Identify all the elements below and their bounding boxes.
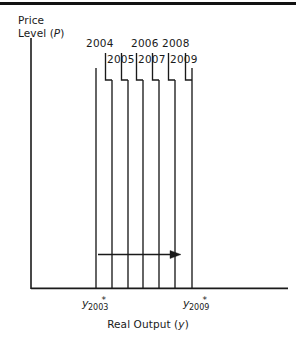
year-label-2008: 2008 bbox=[162, 38, 190, 49]
output-label-end: y2009* bbox=[183, 297, 210, 310]
x-axis-label-prefix: Real Output ( bbox=[107, 318, 178, 330]
year-label-2007: 2007 bbox=[138, 54, 166, 65]
year-label-2004: 2004 bbox=[86, 38, 114, 49]
year-label-2006: 2006 bbox=[131, 38, 159, 49]
x-axis-label-suffix: ) bbox=[185, 318, 189, 330]
lras-growth-figure: Price Level (P) 2004 bbox=[0, 0, 296, 340]
output-label-start: y2003* bbox=[82, 297, 109, 310]
growth-arrow bbox=[98, 251, 181, 259]
x-axis-label: Real Output (y) bbox=[0, 318, 296, 330]
plot-canvas bbox=[0, 0, 296, 340]
year-label-2009: 2009 bbox=[170, 54, 198, 65]
year-label-2005: 2005 bbox=[107, 54, 135, 65]
